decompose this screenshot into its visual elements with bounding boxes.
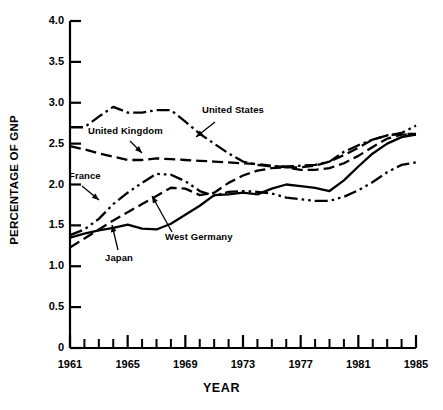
series-label-united-kingdom: United Kingdom	[88, 125, 163, 136]
x-tick-label: 1973	[218, 358, 268, 370]
x-tick-label: 1985	[391, 358, 441, 370]
axis-ticks	[70, 21, 416, 348]
y-tick-label: 2.0	[22, 178, 64, 190]
chart-figure: PERCENTAGE OF GNP YEAR 4.03.53.02.52.01.…	[0, 0, 443, 410]
series-label-france: France	[69, 170, 101, 181]
y-tick-label: 0	[22, 341, 64, 353]
y-tick-label: 1.0	[22, 259, 64, 271]
y-tick-label: 3.0	[22, 96, 64, 108]
series-label-west-germany: West Germany	[165, 231, 233, 242]
y-tick-label: 3.5	[22, 55, 64, 67]
plot-area	[0, 0, 443, 410]
y-tick-label: 4.0	[22, 14, 64, 26]
series-line-united-kingdom	[70, 135, 416, 170]
series-label-japan: Japan	[105, 252, 133, 263]
x-tick-label: 1961	[45, 358, 95, 370]
series-label-united-states: United States	[202, 104, 264, 115]
y-tick-label: 1.5	[22, 218, 64, 230]
y-tick-label: 0.5	[22, 300, 64, 312]
y-tick-label: 2.5	[22, 137, 64, 149]
x-tick-label: 1965	[103, 358, 153, 370]
series-line-france	[70, 162, 416, 235]
x-tick-label: 1977	[276, 358, 326, 370]
x-tick-label: 1981	[333, 358, 383, 370]
series-line-japan	[70, 135, 416, 238]
x-tick-label: 1969	[160, 358, 210, 370]
axis-lines	[70, 21, 416, 348]
